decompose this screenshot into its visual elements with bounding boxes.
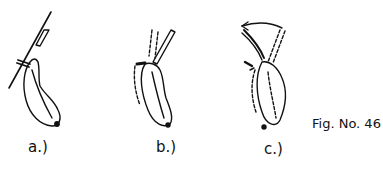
panel-a-label: a.) [28, 138, 48, 156]
figure-caption: Fig. No. 46 [312, 116, 381, 131]
panel-a-drawing [9, 12, 60, 126]
panel-c-drawing [242, 22, 285, 129]
figure-drawing [0, 0, 383, 173]
panel-b-label: b.) [156, 138, 176, 156]
panel-c-label: c.) [264, 140, 283, 158]
panel-b-drawing [134, 30, 175, 127]
